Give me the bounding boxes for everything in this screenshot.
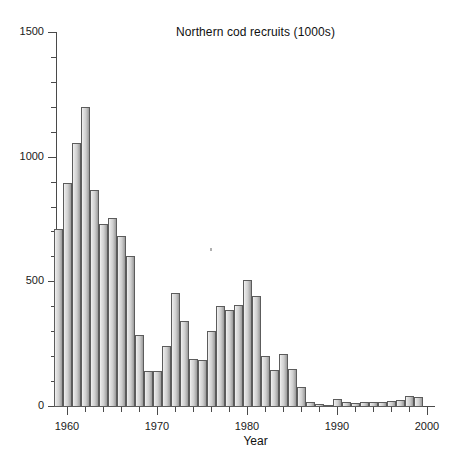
histogram-bar [243, 280, 252, 407]
x-tick-minor [391, 407, 392, 412]
y-tick-minor [51, 132, 56, 133]
histogram-bar [63, 183, 72, 407]
chart-figure: Northern cod recruits (1000s) 0500100015… [0, 0, 455, 463]
y-tick-major [48, 32, 56, 33]
histogram-bar [153, 371, 162, 407]
x-tick-major [427, 407, 428, 415]
x-tick-minor [355, 407, 356, 412]
histogram-bar [207, 331, 216, 407]
histogram-bar [270, 370, 279, 407]
histogram-bar [54, 229, 63, 407]
histogram-bar [405, 396, 414, 407]
histogram-bar [261, 356, 270, 407]
y-tick-minor [51, 107, 56, 108]
x-tick-minor [121, 407, 122, 412]
histogram-bar [99, 224, 108, 407]
x-tick-major [67, 407, 68, 415]
x-tick-minor [409, 407, 410, 412]
x-tick-minor [85, 407, 86, 412]
x-tick-minor [319, 407, 320, 412]
x-tick-major [337, 407, 338, 415]
x-tick-minor [229, 407, 230, 412]
histogram-bar [171, 293, 180, 407]
histogram-bar [81, 107, 90, 407]
x-tick-minor [193, 407, 194, 412]
x-tick-label: 1970 [137, 420, 177, 432]
histogram-bar [216, 306, 225, 407]
x-tick-major [157, 407, 158, 415]
histogram-bar [198, 360, 207, 407]
x-tick-label: 2000 [407, 420, 447, 432]
histogram-bar [126, 256, 135, 407]
y-tick-label: 500 [4, 274, 44, 286]
histogram-bar [378, 402, 387, 407]
x-tick-minor [175, 407, 176, 412]
histogram-bar [90, 190, 99, 407]
plot-area: 05001000150019601970198019902000 [0, 0, 455, 463]
y-tick-minor [51, 82, 56, 83]
histogram-bar [252, 296, 261, 407]
x-tick-minor [139, 407, 140, 412]
histogram-bar [189, 359, 198, 407]
histogram-bar [342, 402, 351, 407]
histogram-bar [360, 402, 369, 407]
artifact-speck [210, 248, 212, 251]
histogram-bar [162, 346, 171, 407]
y-tick-minor [51, 57, 56, 58]
histogram-bar [234, 305, 243, 407]
histogram-bar [324, 405, 333, 407]
y-tick-label: 1000 [4, 150, 44, 162]
histogram-bar [135, 335, 144, 407]
histogram-bar [288, 369, 297, 407]
y-tick-minor [51, 207, 56, 208]
histogram-bar [369, 402, 378, 407]
histogram-bar [180, 321, 189, 407]
x-tick-minor [103, 407, 104, 412]
x-tick-minor [265, 407, 266, 412]
x-tick-label: 1990 [317, 420, 357, 432]
histogram-bar [279, 354, 288, 407]
y-tick-minor [51, 182, 56, 183]
histogram-bar [315, 404, 324, 407]
histogram-bar [306, 402, 315, 407]
histogram-bar [108, 218, 117, 407]
y-tick-label: 1500 [4, 25, 44, 37]
histogram-bar [225, 310, 234, 407]
x-axis-title: Year [28, 434, 455, 448]
histogram-bar [396, 400, 405, 407]
y-tick-major [48, 157, 56, 158]
x-tick-minor [301, 407, 302, 412]
x-tick-minor [373, 407, 374, 412]
histogram-bar [144, 371, 153, 407]
x-tick-label: 1980 [227, 420, 267, 432]
y-tick-label: 0 [4, 399, 44, 411]
x-tick-major [247, 407, 248, 415]
x-tick-minor [283, 407, 284, 412]
x-tick-label: 1960 [47, 420, 87, 432]
histogram-bar [414, 397, 423, 407]
histogram-bar [333, 399, 342, 407]
histogram-bar [351, 403, 360, 407]
x-tick-minor [211, 407, 212, 412]
histogram-bar [117, 236, 126, 407]
histogram-bar [297, 387, 306, 407]
histogram-bar [72, 143, 81, 407]
histogram-bar [387, 401, 396, 407]
